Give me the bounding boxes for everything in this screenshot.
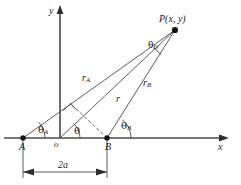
point-label-B: B: [105, 142, 111, 152]
segment-label-rB: rB: [143, 78, 151, 89]
dipole-geometry-figure: P(x, y) y x o A B rA r rB θA θ θB θD 2a: [0, 0, 241, 185]
point-marker-A: [20, 135, 25, 140]
point-label-P: P(x, y): [159, 14, 186, 24]
point-marker-P: [172, 27, 178, 33]
segment-label-r: r: [116, 94, 120, 104]
x-axis-label: x: [218, 142, 222, 152]
dimension-arrowhead-left: [23, 169, 34, 176]
angle-arcs-group: [39, 47, 162, 138]
angle-label-theta-B: θB: [121, 121, 131, 132]
segment-label-rA: rA: [82, 73, 90, 84]
dimension-label-2a: 2a: [58, 160, 68, 170]
dimension-arrowhead-right: [96, 169, 107, 176]
point-label-A: A: [19, 142, 25, 152]
angle-label-theta-A: θA: [38, 125, 48, 136]
figure-canvas: [0, 0, 241, 185]
origin-label: o: [54, 140, 59, 149]
y-axis-label: y: [49, 6, 53, 16]
right-angle-tick: [63, 104, 76, 111]
angle-label-theta: θ: [74, 126, 80, 136]
axes-group: [4, 5, 229, 142]
perpendicular-construction-group: [63, 104, 107, 138]
angle-label-theta-D: θD: [148, 41, 158, 50]
point-marker-B: [104, 135, 109, 140]
y-axis-arrowhead: [57, 5, 64, 14]
